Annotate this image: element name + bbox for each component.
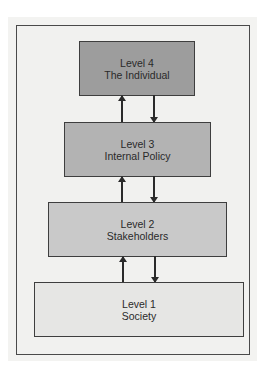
level-4-title: Level 4	[120, 57, 154, 69]
level-2-box: Level 2 Stakeholders	[48, 202, 227, 257]
level-2-title: Level 2	[121, 218, 155, 230]
level-1-box: Level 1 Society	[34, 282, 244, 337]
arrowhead-up-icon	[118, 95, 126, 101]
level-1-title: Level 1	[122, 298, 156, 310]
level-1-label: Society	[122, 310, 156, 322]
arrow-up-1-to-2	[122, 257, 124, 282]
level-2-label: Stakeholders	[107, 230, 168, 242]
level-3-box: Level 3 Internal Policy	[64, 122, 211, 177]
level-4-label: The Individual	[104, 69, 169, 81]
arrow-up-2-to-3	[121, 177, 123, 202]
level-4-box: Level 4 The Individual	[79, 41, 195, 96]
arrowhead-up-icon	[119, 256, 127, 262]
arrow-down-2-to-1	[154, 256, 156, 282]
arrow-up-3-to-4	[121, 96, 123, 122]
level-3-label: Internal Policy	[105, 150, 171, 162]
arrowhead-up-icon	[118, 176, 126, 182]
arrow-down-3-to-2	[153, 176, 155, 202]
level-3-title: Level 3	[121, 138, 155, 150]
arrow-down-4-to-3	[153, 95, 155, 122]
